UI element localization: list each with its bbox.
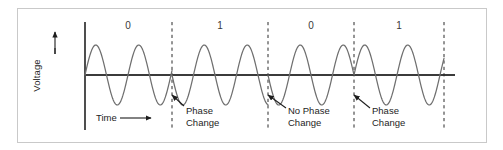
bit-label: 0 xyxy=(118,20,138,31)
psk-waveform-figure: Voltage Time 0101 PhaseChangeNo PhaseCha… xyxy=(0,0,503,150)
bit-label: 1 xyxy=(389,20,409,31)
transition-annotation-line2: Change xyxy=(288,117,330,129)
annotation-arrow-icon xyxy=(354,95,370,108)
bit-label: 0 xyxy=(301,20,321,31)
transition-annotation: PhaseChange xyxy=(372,105,405,128)
transition-annotation: No PhaseChange xyxy=(288,105,330,128)
y-axis-label-text: Voltage xyxy=(31,59,42,91)
transition-annotation-line1: No Phase xyxy=(288,105,330,117)
transition-annotation-line1: Phase xyxy=(372,105,405,117)
transition-annotation-line2: Change xyxy=(186,117,219,129)
x-axis-label-text: Time xyxy=(96,112,117,123)
x-axis-label: Time xyxy=(96,112,117,123)
transition-annotation: PhaseChange xyxy=(186,105,219,128)
transition-annotation-line1: Phase xyxy=(186,105,219,117)
bit-label: 1 xyxy=(210,20,230,31)
waveform-plot xyxy=(0,0,503,150)
transition-annotation-line2: Change xyxy=(372,117,405,129)
y-axis-label: Voltage xyxy=(28,36,44,114)
